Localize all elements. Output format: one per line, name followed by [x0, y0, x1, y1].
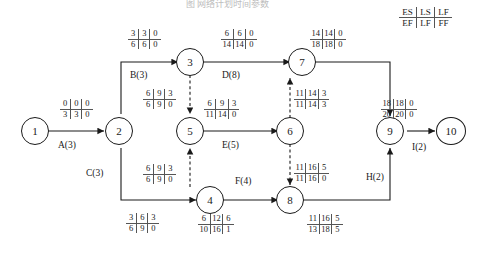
node-1-label: 1 — [32, 125, 38, 137]
node-4[interactable]: 4 — [196, 186, 224, 214]
node-6-label: 6 — [287, 125, 293, 137]
activity-label-d: D(8) — [222, 70, 240, 80]
network-diagram-canvas: 1 2 3 4 5 6 7 8 9 10 A(3) B(3) C(3) D(8)… — [0, 0, 478, 253]
figure-title: 图 网络计划时间参数 — [186, 0, 269, 10]
time-box-f: 6 12 6 10 16 1 — [198, 214, 234, 234]
time-box-g: 14 14 0 18 18 0 — [310, 29, 346, 49]
node-9[interactable]: 9 — [376, 117, 404, 145]
node-3-label: 3 — [187, 56, 193, 68]
node-5[interactable]: 5 — [176, 117, 204, 145]
node-7[interactable]: 7 — [288, 48, 316, 76]
node-5-label: 5 — [187, 125, 193, 137]
node-4-label: 4 — [207, 194, 213, 206]
time-parameter-legend: ES LS LF EF LF FF — [399, 7, 452, 28]
activity-label-c: C(3) — [86, 168, 103, 178]
time-box-dummy-3-5: 6 9 3 6 9 0 — [143, 89, 176, 109]
activity-label-f: F(4) — [235, 176, 251, 186]
time-box-h: 11 16 5 13 18 5 — [307, 214, 343, 234]
node-7-label: 7 — [299, 56, 305, 68]
time-box-dummy-4-5: 6 9 3 6 9 0 — [143, 164, 176, 184]
time-box-b: 3 3 0 6 6 0 — [128, 29, 161, 49]
node-8-label: 8 — [287, 194, 293, 206]
activity-label-i: I(2) — [412, 142, 426, 152]
node-3[interactable]: 3 — [176, 48, 204, 76]
activity-label-a: A(3) — [58, 140, 76, 150]
node-2[interactable]: 2 — [105, 117, 133, 145]
node-8[interactable]: 8 — [276, 186, 304, 214]
activity-label-b: B(3) — [130, 70, 147, 80]
time-box-d: 6 6 0 14 14 0 — [221, 29, 257, 49]
time-box-a: 0 0 0 3 3 0 — [60, 99, 93, 119]
time-box-i: 18 18 0 20 20 0 — [381, 99, 417, 119]
node-10-label: 10 — [446, 125, 457, 137]
time-box-dummy-6-7: 11 14 3 11 14 3 — [294, 89, 329, 109]
time-box-c: 3 6 3 6 9 0 — [126, 213, 159, 233]
node-1[interactable]: 1 — [21, 117, 49, 145]
activity-label-e: E(5) — [222, 140, 239, 150]
node-9-label: 9 — [387, 125, 393, 137]
node-10[interactable]: 10 — [436, 117, 466, 145]
node-2-label: 2 — [116, 125, 122, 137]
activity-label-h: H(2) — [366, 172, 384, 182]
time-box-e: 6 9 3 11 14 0 — [204, 99, 239, 119]
time-box-dummy-6-8: 11 16 5 11 16 0 — [294, 163, 329, 183]
node-6[interactable]: 6 — [276, 117, 304, 145]
